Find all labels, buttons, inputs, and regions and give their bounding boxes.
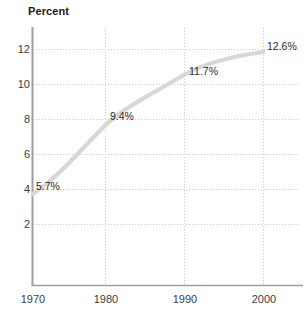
ytick-label-2: 2 bbox=[8, 218, 30, 230]
vertical-gridlines bbox=[106, 28, 264, 285]
ytick-label-10: 10 bbox=[8, 78, 30, 90]
line-chart: Percent 12 10 8 6 4 2 1970 1980 1990 200… bbox=[0, 0, 306, 316]
xtick-label-2000: 2000 bbox=[242, 293, 286, 305]
data-line-percent bbox=[33, 52, 264, 194]
ytick-label-12: 12 bbox=[8, 43, 30, 55]
ytick-label-8: 8 bbox=[8, 113, 30, 125]
xtick-label-1990: 1990 bbox=[163, 293, 207, 305]
ytick-label-4: 4 bbox=[8, 183, 30, 195]
point-label-2000: 12.6% bbox=[267, 40, 297, 52]
point-label-1980: 9.4% bbox=[110, 110, 134, 122]
plot-area bbox=[0, 0, 306, 316]
point-label-1990: 11.7% bbox=[189, 65, 218, 77]
xtick-label-1970: 1970 bbox=[11, 293, 55, 305]
xtick-label-1980: 1980 bbox=[84, 293, 128, 305]
point-label-1970: 5.7% bbox=[36, 180, 60, 192]
horizontal-gridlines bbox=[33, 50, 300, 225]
ytick-label-6: 6 bbox=[8, 148, 30, 160]
